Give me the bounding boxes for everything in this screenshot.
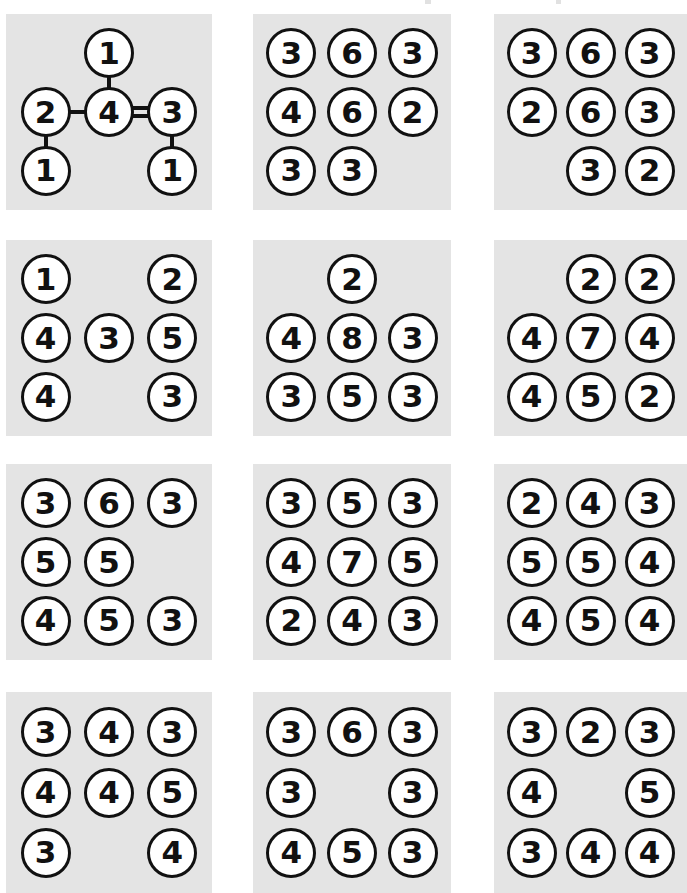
- numbered-node[interactable]: 3: [266, 478, 316, 528]
- numbered-node[interactable]: 5: [507, 537, 557, 587]
- numbered-node[interactable]: 6: [327, 28, 377, 78]
- numbered-node[interactable]: 3: [21, 478, 71, 528]
- numbered-node[interactable]: 5: [625, 768, 675, 818]
- numbered-node[interactable]: 5: [327, 478, 377, 528]
- numbered-node[interactable]: 5: [84, 596, 134, 646]
- numbered-node[interactable]: 5: [566, 596, 616, 646]
- numbered-node[interactable]: 2: [327, 254, 377, 304]
- puzzle-panel[interactable]: 22474452: [494, 240, 687, 436]
- numbered-node[interactable]: 5: [566, 372, 616, 422]
- numbered-node[interactable]: 3: [625, 87, 675, 137]
- numbered-node[interactable]: 7: [327, 537, 377, 587]
- numbered-node[interactable]: 4: [266, 87, 316, 137]
- puzzle-panel[interactable]: 32345344: [494, 692, 687, 893]
- numbered-node[interactable]: 2: [566, 707, 616, 757]
- numbered-node[interactable]: 4: [84, 768, 134, 818]
- puzzle-panel[interactable]: 124311: [6, 14, 212, 210]
- numbered-node[interactable]: 4: [147, 828, 197, 878]
- numbered-node[interactable]: 3: [147, 596, 197, 646]
- numbered-node[interactable]: 5: [84, 537, 134, 587]
- numbered-node[interactable]: 4: [21, 768, 71, 818]
- numbered-node[interactable]: 2: [507, 478, 557, 528]
- numbered-node[interactable]: 3: [625, 28, 675, 78]
- numbered-node[interactable]: 4: [507, 596, 557, 646]
- numbered-node[interactable]: 6: [327, 707, 377, 757]
- numbered-node[interactable]: 4: [327, 596, 377, 646]
- numbered-node[interactable]: 3: [21, 828, 71, 878]
- numbered-node[interactable]: 4: [266, 313, 316, 363]
- numbered-node[interactable]: 1: [21, 146, 71, 196]
- numbered-node[interactable]: 4: [625, 537, 675, 587]
- numbered-node[interactable]: 2: [625, 254, 675, 304]
- numbered-node[interactable]: 2: [21, 87, 71, 137]
- numbered-node[interactable]: 1: [147, 146, 197, 196]
- numbered-node[interactable]: 3: [625, 707, 675, 757]
- numbered-node[interactable]: 3: [566, 146, 616, 196]
- numbered-node[interactable]: 5: [566, 537, 616, 587]
- numbered-node[interactable]: 4: [21, 596, 71, 646]
- numbered-node[interactable]: 8: [327, 313, 377, 363]
- numbered-node[interactable]: 5: [147, 313, 197, 363]
- puzzle-panel[interactable]: 34344534: [6, 692, 212, 893]
- numbered-node[interactable]: 4: [21, 372, 71, 422]
- numbered-node[interactable]: 4: [266, 828, 316, 878]
- numbered-node[interactable]: 4: [84, 87, 134, 137]
- numbered-node[interactable]: 3: [507, 707, 557, 757]
- numbered-node[interactable]: 3: [388, 707, 438, 757]
- numbered-node[interactable]: 4: [566, 478, 616, 528]
- numbered-node[interactable]: 3: [266, 146, 316, 196]
- numbered-node[interactable]: 2: [147, 254, 197, 304]
- numbered-node[interactable]: 4: [625, 596, 675, 646]
- numbered-node[interactable]: 3: [388, 478, 438, 528]
- numbered-node[interactable]: 1: [84, 28, 134, 78]
- numbered-node[interactable]: 4: [507, 372, 557, 422]
- numbered-node[interactable]: 6: [327, 87, 377, 137]
- numbered-node[interactable]: 6: [566, 87, 616, 137]
- numbered-node[interactable]: 4: [266, 537, 316, 587]
- numbered-node[interactable]: 5: [21, 537, 71, 587]
- numbered-node[interactable]: 4: [625, 313, 675, 363]
- numbered-node[interactable]: 7: [566, 313, 616, 363]
- puzzle-panel[interactable]: 36333453: [253, 692, 451, 893]
- numbered-node[interactable]: 4: [21, 313, 71, 363]
- numbered-node[interactable]: 3: [266, 28, 316, 78]
- numbered-node[interactable]: 3: [327, 146, 377, 196]
- numbered-node[interactable]: 2: [625, 372, 675, 422]
- numbered-node[interactable]: 3: [266, 768, 316, 818]
- numbered-node[interactable]: 5: [327, 372, 377, 422]
- numbered-node[interactable]: 5: [147, 768, 197, 818]
- numbered-node[interactable]: 4: [84, 707, 134, 757]
- numbered-node[interactable]: 3: [388, 372, 438, 422]
- numbered-node[interactable]: 3: [507, 28, 557, 78]
- numbered-node[interactable]: 3: [147, 707, 197, 757]
- numbered-node[interactable]: 3: [21, 707, 71, 757]
- numbered-node[interactable]: 4: [625, 828, 675, 878]
- puzzle-panel[interactable]: 36355453: [6, 464, 212, 660]
- numbered-node[interactable]: 3: [266, 707, 316, 757]
- numbered-node[interactable]: 3: [388, 596, 438, 646]
- puzzle-panel[interactable]: 243554454: [494, 464, 687, 660]
- numbered-node[interactable]: 3: [147, 372, 197, 422]
- numbered-node[interactable]: 5: [388, 537, 438, 587]
- numbered-node[interactable]: 2: [566, 254, 616, 304]
- numbered-node[interactable]: 3: [266, 372, 316, 422]
- numbered-node[interactable]: 3: [84, 313, 134, 363]
- numbered-node[interactable]: 5: [327, 828, 377, 878]
- numbered-node[interactable]: 1: [21, 254, 71, 304]
- numbered-node[interactable]: 2: [266, 596, 316, 646]
- numbered-node[interactable]: 2: [507, 87, 557, 137]
- numbered-node[interactable]: 6: [566, 28, 616, 78]
- numbered-node[interactable]: 4: [566, 828, 616, 878]
- puzzle-panel[interactable]: 2483353: [253, 240, 451, 436]
- numbered-node[interactable]: 3: [625, 478, 675, 528]
- numbered-node[interactable]: 3: [388, 828, 438, 878]
- numbered-node[interactable]: 3: [507, 828, 557, 878]
- numbered-node[interactable]: 3: [388, 768, 438, 818]
- puzzle-panel[interactable]: 36326332: [494, 14, 687, 210]
- numbered-node[interactable]: 6: [84, 478, 134, 528]
- puzzle-panel[interactable]: 1243543: [6, 240, 212, 436]
- puzzle-panel[interactable]: 36346233: [253, 14, 451, 210]
- numbered-node[interactable]: 2: [625, 146, 675, 196]
- numbered-node[interactable]: 2: [388, 87, 438, 137]
- numbered-node[interactable]: 4: [507, 313, 557, 363]
